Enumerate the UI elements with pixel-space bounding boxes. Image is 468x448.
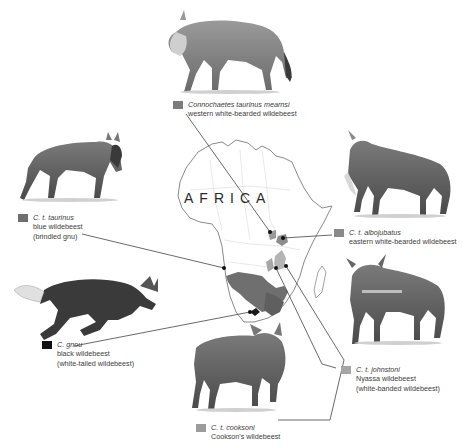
illustration-cooksoni bbox=[192, 322, 285, 410]
illustration-johnstoni bbox=[346, 254, 445, 344]
legend-swatch-taurinus bbox=[18, 214, 28, 222]
scientific-name: C. t. albojubatus bbox=[349, 228, 456, 237]
africa-map bbox=[178, 140, 332, 322]
common-name: black wildebeest bbox=[57, 349, 134, 358]
legend-taurinus: C. t. taurinus blue wildebeest (brindled… bbox=[18, 213, 83, 241]
legend-swatch-cooksoni bbox=[196, 424, 206, 432]
map-label-africa: AFRICA bbox=[184, 190, 271, 206]
scientific-name: Connochaetes taurinus mearnsi bbox=[188, 100, 297, 109]
scientific-name: C. t. cooksoni bbox=[211, 423, 280, 432]
alternate-name: (white-tailed wildebeest) bbox=[57, 359, 134, 368]
legend-swatch-gnou bbox=[42, 341, 52, 349]
illustration-gnou bbox=[14, 276, 158, 340]
common-name: eastern white-bearded wildebeest bbox=[349, 237, 456, 246]
legend-johnstoni: C. t. johnstoni Nyassa wildebeest (white… bbox=[341, 365, 440, 393]
scientific-name: C. t. taurinus bbox=[33, 213, 83, 222]
common-name: Nyassa wildebeest bbox=[356, 374, 440, 383]
alternate-name: (white-banded wildebeest) bbox=[356, 384, 440, 393]
wildebeest-distribution-diagram: AFRICA Connochaetes taurinus mearnsi wes… bbox=[0, 0, 468, 448]
illustration-taurinus bbox=[20, 132, 122, 200]
alternate-name: (brindled gnu) bbox=[33, 232, 83, 241]
legend-swatch-mearnsi bbox=[173, 101, 183, 109]
common-name: western white-bearded wildebeest bbox=[188, 109, 297, 118]
scientific-name: C. t. johnstoni bbox=[356, 365, 440, 374]
leader-line-taurinus bbox=[82, 234, 224, 268]
scientific-name: C. gnou bbox=[57, 340, 134, 349]
legend-cooksoni: C. t. cooksoni Cookson's wildebeest bbox=[196, 423, 280, 442]
legend-mearnsi: Connochaetes taurinus mearnsi western wh… bbox=[173, 100, 297, 119]
illustration-mearnsi bbox=[169, 10, 292, 92]
legend-swatch-johnstoni bbox=[341, 366, 351, 374]
legend-swatch-albojubatus bbox=[334, 229, 344, 237]
legend-albojubatus: C. t. albojubatus eastern white-bearded … bbox=[334, 228, 456, 247]
common-name: Cookson's wildebeest bbox=[211, 432, 280, 441]
legend-gnou: C. gnou black wildebeest (white-tailed w… bbox=[42, 340, 134, 368]
common-name: blue wildebeest bbox=[33, 222, 83, 231]
madagascar bbox=[314, 266, 326, 298]
illustration-albojubatus bbox=[344, 130, 451, 216]
